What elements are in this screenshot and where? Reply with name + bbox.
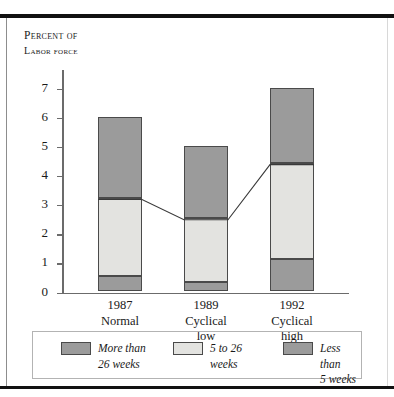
segment-5-to-26-weeks [184,218,228,282]
y-tick: 1 [57,263,62,264]
x-label-year: 1987 [75,298,165,314]
x-label-caption: Normal [75,314,165,330]
segment-less-than-5-weeks [98,276,142,291]
y-tick: 6 [57,118,62,119]
legend-swatch-icon [173,342,203,355]
left-rule [6,18,7,386]
plot-area: 01234567 1987Normal1989Cyclical low1992C… [62,70,352,294]
y-axis-title-line2: Labor force [24,44,78,58]
segment-less-than-5-weeks [270,259,314,291]
y-tick-label: 0 [42,284,49,300]
legend-swatch-icon [61,342,91,355]
y-tick-label: 3 [42,196,49,212]
segment-more-than-26-weeks [184,146,228,219]
bar-1989 [184,69,228,293]
legend-label: More than 26 weeks [98,341,146,372]
x-axis-line [62,293,349,295]
y-tick-label: 2 [42,225,49,241]
x-axis-label-1987: 1987Normal [75,298,165,329]
y-axis-line [62,70,64,294]
y-axis-title: Percent of Labor force [24,28,78,57]
segment-more-than-26-weeks [98,117,142,198]
legend-item-1[interactable]: 5 to 26 weeks [173,341,242,372]
top-rule [0,14,394,18]
x-label-year: 1992 [247,298,337,314]
y-tick: 0 [57,293,62,294]
y-tick-label: 4 [42,167,49,183]
bar-1992 [270,69,314,293]
legend-label: Less than 5 weeks [320,341,361,388]
y-axis-title-line1: Percent of [24,28,78,44]
figure-container: Percent of Labor force 01234567 1987Norm… [0,0,394,397]
y-tick-label: 7 [42,80,49,96]
legend-label: 5 to 26 weeks [210,341,242,372]
segment-5-to-26-weeks [98,198,142,276]
y-tick: 7 [57,89,62,90]
segment-more-than-26-weeks [270,88,314,164]
y-tick-label: 1 [42,254,49,270]
y-tick: 3 [57,205,62,206]
y-tick: 5 [57,147,62,148]
x-label-year: 1989 [161,298,251,314]
segment-5-to-26-weeks [270,163,314,259]
chart-legend: More than 26 weeks5 to 26 weeksLess than… [32,331,362,379]
right-rule [387,18,388,386]
legend-item-2[interactable]: Less than 5 weeks [283,341,361,388]
bar-1987 [98,69,142,293]
legend-item-0[interactable]: More than 26 weeks [61,341,146,372]
y-tick-label: 6 [42,109,49,125]
y-tick-label: 5 [42,138,49,154]
legend-swatch-icon [283,342,313,355]
y-tick: 4 [57,176,62,177]
segment-less-than-5-weeks [184,282,228,291]
y-tick: 2 [57,234,62,235]
